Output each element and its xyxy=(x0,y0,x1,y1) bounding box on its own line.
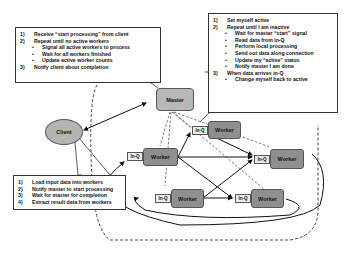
worker-step-2: 2)Repeat until I am inactive xyxy=(213,24,333,31)
client-node: Client xyxy=(45,119,83,145)
worker-inq: In-Q xyxy=(254,155,270,164)
worker-substep: Perform local processing xyxy=(213,43,333,50)
master-node: Master xyxy=(156,88,194,111)
master-note: 1)Receive “start processing” from client… xyxy=(15,27,161,83)
master-substep: Update active worker counts xyxy=(20,57,156,64)
worker-node: Worker xyxy=(270,149,304,169)
worker-node: Worker xyxy=(208,121,241,139)
worker-inq: In-Q xyxy=(155,194,171,203)
master-step-3: 3)Notify client about completion xyxy=(20,64,156,71)
worker-substep: Send out data along connection xyxy=(213,50,333,57)
worker-inq: In-Q xyxy=(127,152,143,161)
master-substep: Wait for all workers finished xyxy=(20,51,156,58)
worker-substep: Wait for master “start” signal xyxy=(213,30,333,37)
worker-step-3: 3)When data arrives in-Q xyxy=(213,70,333,77)
worker-substep: Read data from in-Q xyxy=(213,37,333,44)
client-step-2: 2)Notify master to start processing xyxy=(18,186,121,193)
worker-note: 1)Set myself active 2)Repeat until I am … xyxy=(208,13,338,113)
worker-node: Worker xyxy=(143,148,178,166)
master-step-2: 2)Repeat until no active workers xyxy=(20,38,156,45)
worker-substep: Change myself back to active xyxy=(213,76,333,83)
client-step-3: 3)Wait for master for completion xyxy=(18,192,121,199)
worker-node: Worker xyxy=(171,189,204,208)
worker-substep: Notify master I am done xyxy=(213,63,333,70)
client-note: 1)Load input data into workers 2)Notify … xyxy=(13,175,126,210)
master-substep: Signal all active workers to process xyxy=(20,44,156,51)
worker-inq: In-Q xyxy=(192,126,208,135)
master-step-1: 1)Receive “start processing” from client xyxy=(20,31,156,38)
worker-step-1: 1)Set myself active xyxy=(213,17,333,24)
worker-inq: In-Q xyxy=(235,194,251,203)
client-step-4: 4)Extract result data from workers xyxy=(18,199,121,206)
worker-node: Worker xyxy=(251,189,284,208)
worker-substep: Update my “active” status xyxy=(213,57,333,64)
client-step-1: 1)Load input data into workers xyxy=(18,179,121,186)
